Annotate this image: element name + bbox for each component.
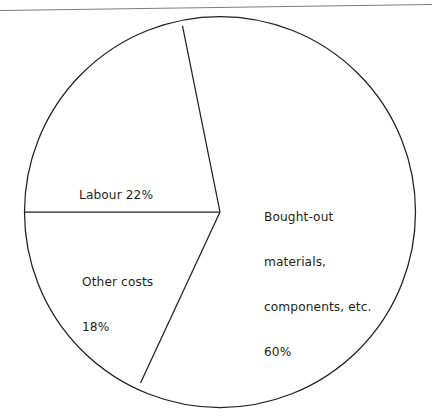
pie-slice-label-bought-out: Bought-out materials, components, etc. 6…	[264, 180, 372, 390]
pie-chart-figure: Labour 22% Bought-out materials, compone…	[0, 0, 432, 419]
top-divider-rule	[0, 5, 432, 11]
pie-slice-label-bought-out-line4: 60%	[264, 345, 372, 360]
pie-slice-label-other-costs: Other costs 18%	[82, 245, 153, 365]
pie-slice-label-labour: Labour 22%	[79, 158, 153, 233]
pie-slice-label-bought-out-line2: materials,	[264, 255, 372, 270]
pie-slice-label-bought-out-line1: Bought-out	[264, 210, 372, 225]
pie-slice-label-bought-out-line3: components, etc.	[264, 300, 372, 315]
pie-slice-label-other-costs-line1: Other costs	[82, 275, 153, 290]
pie-slice-label-labour-line1: Labour 22%	[79, 188, 153, 203]
pie-slice-label-other-costs-line2: 18%	[82, 320, 153, 335]
